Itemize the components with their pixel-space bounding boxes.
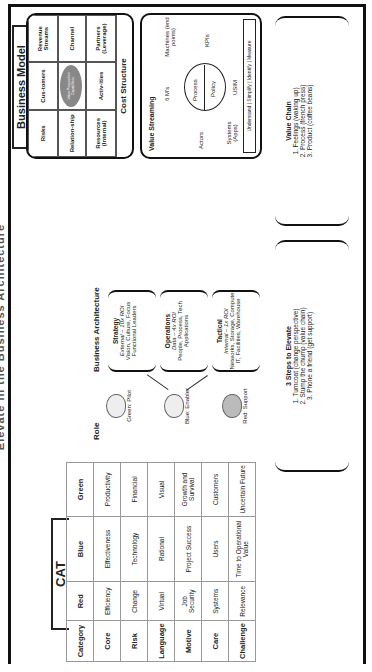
bm-customers: Cus-tomers: [28, 62, 58, 109]
cell-red: Efficiency: [94, 582, 121, 621]
strategy-box: Strategy External – 10x ROI Vision, Cult…: [108, 290, 156, 372]
sheep-icon: [164, 394, 184, 418]
role-label: Green: Pilot: [126, 376, 132, 436]
cell-green: Productivity: [94, 463, 121, 517]
role-label: Red: Support: [242, 376, 248, 436]
cell-blue: Rational: [148, 516, 175, 582]
row-category: Language: [148, 621, 175, 662]
box-name: Strategy: [112, 292, 119, 370]
bm-revenue-streams: Revenue Streams: [28, 15, 58, 62]
bm-channel: Channel: [58, 15, 86, 62]
process-policy-oval: [184, 63, 226, 111]
cell-blue: Users: [202, 516, 229, 582]
bm-resources: Resources (Internal): [86, 110, 116, 157]
cat-header-row: Category Red Blue Green: [67, 463, 94, 662]
operations-box: Operations Data – 4x ROI People, Process…: [160, 290, 208, 372]
value-proposition-oval: Value Proposition Capabilities: [60, 65, 82, 107]
step-item: 2. Stump the chump (value chain): [299, 242, 306, 470]
actors: Actors: [198, 132, 204, 149]
machines: Machines (end points): [164, 17, 176, 57]
value-chain-item: 2. Process (french press): [299, 18, 306, 224]
box-name: Operations: [164, 292, 171, 370]
steps-box: 3 Steps to Elevate 1. Turncoat (change p…: [275, 240, 349, 472]
cell-blue: Time to Operational Value: [229, 516, 256, 582]
cell-red: Relevance: [229, 582, 256, 621]
row-category: Challenge: [229, 621, 256, 662]
six-ms: 6 M's: [164, 87, 170, 101]
box-line: Functional Leaders: [131, 292, 137, 370]
value-chain-title: Value Chain: [285, 18, 292, 224]
row-category: Care: [202, 621, 229, 662]
cell-green: Uncertain Future: [229, 463, 256, 517]
box-line: IT, Facilities, Warehouse: [235, 292, 241, 370]
role-title: Role: [92, 423, 101, 440]
policy-label: Policy: [210, 81, 216, 97]
tactical-box: Tactical Internal – 1x ROI Networks, Sto…: [212, 290, 260, 372]
bm-activities: Activ-ities: [86, 62, 116, 109]
cell-red: Job Security: [175, 582, 202, 621]
table-row: Motive Job Security Project Success Grow…: [175, 463, 202, 662]
step-item: 1. Turncoat (change perspective): [292, 242, 299, 470]
business-architecture-title: Business Architecture: [92, 287, 101, 372]
cell-green: Visual: [148, 463, 175, 517]
role-enabler: Blue: Enabler: [164, 376, 190, 436]
box-line: Applications: [183, 292, 189, 370]
row-category: Risk: [121, 621, 148, 662]
role-pilot: Green: Pilot: [106, 376, 132, 436]
kpis: KPIs: [204, 34, 210, 47]
bm-risks: Risks: [28, 110, 58, 157]
role-support: Red: Support: [222, 376, 248, 436]
header-red: Red: [67, 582, 94, 621]
role-label: Blue: Enabler: [184, 376, 190, 436]
bm-relationship: Relation-ship: [58, 110, 86, 157]
cell-blue: Project Success: [175, 516, 202, 582]
value-streaming-title: Value Streaming: [148, 97, 155, 151]
sheep-icon: [106, 394, 126, 418]
header-blue: Blue: [67, 516, 94, 582]
table-row: Language Virtual Rational Visual: [148, 463, 175, 662]
cat-table: Category Red Blue Green Core Efficiency …: [66, 462, 256, 662]
cell-blue: Technology: [121, 516, 148, 582]
step-item: 3. Phone a friend (get support): [306, 242, 313, 470]
value-chain-item: 1. Feelings (waking up): [292, 18, 299, 224]
row-category: Core: [94, 621, 121, 662]
systems: Systems (Apps): [226, 115, 238, 151]
cell-red: Systems: [202, 582, 229, 621]
cell-green: Growth and Survival: [175, 463, 202, 517]
sheep-icon: [222, 394, 242, 418]
row-category: Motive: [175, 621, 202, 662]
cell-blue: Effectiveness: [94, 516, 121, 582]
usim: USIM: [232, 80, 238, 95]
cell-green: Financial: [121, 463, 148, 517]
value-chain-box: Value Chain 1. Feelings (waking up) 2. P…: [275, 16, 349, 226]
capabilities-label: Capabilities: [71, 77, 75, 95]
box-name: Tactical: [216, 292, 223, 370]
table-row: Risk Change Technology Financial: [121, 463, 148, 662]
usim-footer: Understand | Simplify | Identify | Measu…: [243, 19, 256, 153]
cost-structure: Cost Structure: [116, 15, 131, 157]
business-model-canvas: Risks Cus-tomers Revenue Streams Relatio…: [26, 13, 134, 159]
value-chain-item: 3. Product (coffee beans): [306, 18, 313, 224]
value-streaming-panel: Value Streaming 6 M's Actors Machines (e…: [140, 13, 262, 159]
cell-green: Customers: [202, 463, 229, 517]
cell-red: Virtual: [148, 582, 175, 621]
table-row: Challenge Relevance Time to Operational …: [229, 463, 256, 662]
steps-title: 3 Steps to Elevate: [285, 242, 292, 470]
header-category: Category: [67, 621, 94, 662]
bm-partners: Partners (Leverage): [86, 15, 116, 62]
cell-red: Change: [121, 582, 148, 621]
page-title: Elevate in the Business Architecture: [0, 217, 6, 457]
header-green: Green: [67, 463, 94, 517]
oval-divider: [204, 65, 205, 111]
process-label: Process: [192, 79, 198, 101]
table-row: Care Systems Users Customers: [202, 463, 229, 662]
table-row: Core Efficiency Effectiveness Productivi…: [94, 463, 121, 662]
document-sheet: Elevate in the Business Architecture CAT…: [0, 0, 372, 672]
